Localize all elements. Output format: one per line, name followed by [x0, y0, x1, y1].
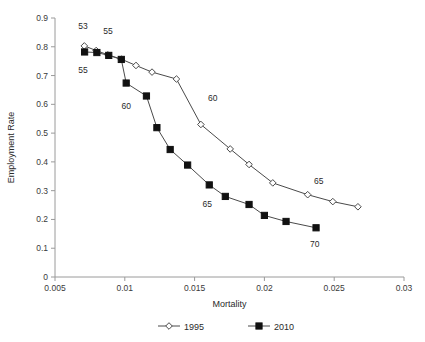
- data-point-2010[interactable]: [154, 125, 160, 131]
- data-point-2010[interactable]: [261, 212, 267, 218]
- annotations-layer: 5355556060656570: [78, 21, 324, 249]
- series-2010: [81, 49, 319, 231]
- x-tick-label: 0.02: [256, 283, 273, 293]
- legend-label-1995: 1995: [184, 322, 204, 332]
- axis-titles-layer: MortalityEmployment Rate: [6, 112, 247, 309]
- x-axis-title: Mortality: [212, 299, 247, 309]
- x-tick-label: 0.025: [324, 283, 346, 293]
- y-tick-label: 0.9: [36, 13, 48, 23]
- age-annotation: 65: [202, 199, 212, 209]
- legend-label-2010: 2010: [274, 322, 294, 332]
- data-point-2010[interactable]: [167, 146, 173, 152]
- legend-marker-diamond-icon: [166, 323, 173, 330]
- y-tick-label: 0.6: [36, 99, 48, 109]
- chart-legend: 19952010: [158, 322, 294, 332]
- data-point-2010[interactable]: [185, 162, 191, 168]
- legend-entry-2010[interactable]: 2010: [248, 322, 294, 332]
- data-point-2010[interactable]: [123, 80, 129, 86]
- data-point-1995[interactable]: [355, 203, 362, 210]
- data-point-2010[interactable]: [246, 201, 252, 207]
- data-point-2010[interactable]: [106, 52, 112, 58]
- data-point-1995[interactable]: [173, 76, 180, 83]
- age-annotation: 60: [208, 93, 218, 103]
- data-point-1995[interactable]: [81, 43, 88, 50]
- data-point-2010[interactable]: [313, 225, 319, 231]
- data-point-2010[interactable]: [94, 49, 100, 55]
- age-annotation: 55: [78, 65, 88, 75]
- age-annotation: 70: [310, 239, 320, 249]
- y-tick-label: 0.7: [36, 71, 48, 81]
- data-point-2010[interactable]: [118, 56, 124, 62]
- axes-layer: 00.10.20.30.40.50.60.70.80.90.0050.010.0…: [36, 13, 412, 293]
- y-tick-label: 0.3: [36, 186, 48, 196]
- y-tick-label: 0: [43, 272, 48, 282]
- age-annotation: 60: [121, 101, 131, 111]
- data-point-2010[interactable]: [81, 49, 87, 55]
- y-tick-label: 0.1: [36, 243, 48, 253]
- age-annotation: 55: [103, 26, 113, 36]
- series-line-2010: [85, 52, 316, 228]
- age-annotation: 65: [314, 176, 324, 186]
- y-tick-label: 0.2: [36, 214, 48, 224]
- x-tick-label: 0.01: [117, 283, 134, 293]
- data-point-1995[interactable]: [330, 198, 337, 205]
- data-point-2010[interactable]: [283, 218, 289, 224]
- data-point-2010[interactable]: [206, 182, 212, 188]
- y-tick-label: 0.8: [36, 42, 48, 52]
- y-axis-title: Employment Rate: [6, 112, 16, 184]
- data-point-1995[interactable]: [304, 191, 311, 198]
- data-point-2010[interactable]: [143, 93, 149, 99]
- data-point-1995[interactable]: [149, 69, 156, 76]
- legend-entry-1995[interactable]: 1995: [158, 322, 204, 332]
- x-tick-label: 0.005: [44, 283, 66, 293]
- data-point-1995[interactable]: [133, 62, 140, 69]
- data-point-2010[interactable]: [222, 193, 228, 199]
- y-tick-label: 0.4: [36, 157, 48, 167]
- employment-mortality-chart: 00.10.20.30.40.50.60.70.80.90.0050.010.0…: [0, 0, 425, 342]
- x-tick-label: 0.03: [396, 283, 413, 293]
- age-annotation: 53: [78, 21, 88, 31]
- y-tick-label: 0.5: [36, 128, 48, 138]
- x-tick-label: 0.015: [184, 283, 206, 293]
- series-layer: [81, 43, 361, 231]
- legend-marker-square-icon: [256, 323, 262, 329]
